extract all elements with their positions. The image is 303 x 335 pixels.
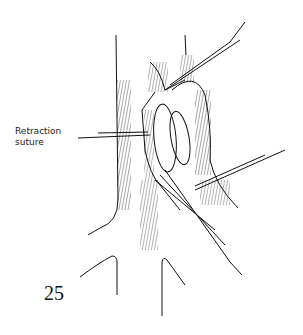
surgical-illustration: Retraction suture 25 [0, 0, 303, 335]
retraction-suture-label: Retraction suture [15, 126, 61, 148]
label-line-2: suture [15, 137, 61, 148]
label-line-1: Retraction [15, 126, 61, 137]
figure-number: 25 [44, 282, 64, 305]
